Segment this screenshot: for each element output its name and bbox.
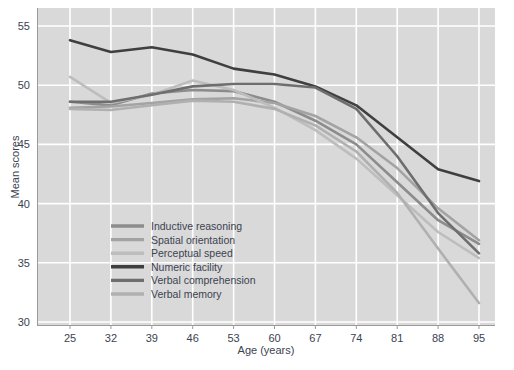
legend-label: Inductive reasoning xyxy=(151,220,242,232)
x-tick-label: 46 xyxy=(187,332,199,344)
y-tick-label: 30 xyxy=(18,316,30,328)
line-chart: 303540455055 2532394653606774818895 Age … xyxy=(0,0,514,370)
x-tick-label: 74 xyxy=(350,332,362,344)
x-tick-label: 60 xyxy=(268,332,280,344)
legend-label: Numeric facility xyxy=(151,261,223,273)
legend-label: Spatial orientation xyxy=(151,234,235,246)
y-tick-label: 50 xyxy=(18,79,30,91)
plot-area-background xyxy=(37,8,495,325)
x-tick-label: 95 xyxy=(473,332,485,344)
x-tick-label: 39 xyxy=(146,332,158,344)
x-tick-label: 88 xyxy=(432,332,444,344)
x-tick-label: 81 xyxy=(391,332,403,344)
x-tick-label: 67 xyxy=(309,332,321,344)
x-tick-label: 32 xyxy=(105,332,117,344)
y-axis-title: Mean scores xyxy=(9,135,21,198)
y-tick-label: 55 xyxy=(18,20,30,32)
x-axis-tick-labels: 2532394653606774818895 xyxy=(64,332,485,344)
x-tick-label: 25 xyxy=(64,332,76,344)
legend-label: Verbal comprehension xyxy=(151,274,256,286)
chart-container: 303540455055 2532394653606774818895 Age … xyxy=(0,0,514,370)
x-axis-title: Age (years) xyxy=(238,344,295,356)
x-tick-label: 53 xyxy=(227,332,239,344)
legend-label: Verbal memory xyxy=(151,288,222,300)
y-tick-label: 35 xyxy=(18,257,30,269)
legend-label: Perceptual speed xyxy=(151,247,233,259)
